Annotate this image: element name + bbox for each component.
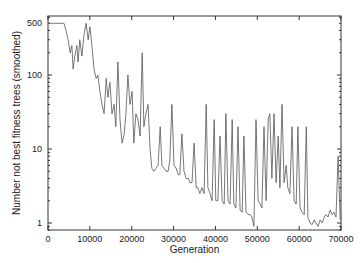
y-tick-label: 100 bbox=[27, 70, 42, 80]
series-line-not-best-fitness bbox=[48, 23, 340, 226]
y-axis-title: Number not best fitness trees (smoothed) bbox=[11, 31, 22, 215]
chart: 010000200003000040000500006000070000 110… bbox=[0, 0, 364, 263]
x-tick-label: 60000 bbox=[287, 234, 312, 244]
y-tick-label: 10 bbox=[32, 144, 42, 154]
x-tick-label: 50000 bbox=[245, 234, 270, 244]
x-tick-label: 40000 bbox=[203, 234, 228, 244]
x-tick-label: 10000 bbox=[77, 234, 102, 244]
x-tick-label: 70000 bbox=[328, 234, 353, 244]
y-tick-label: 500 bbox=[27, 18, 42, 28]
x-tick-label: 20000 bbox=[119, 234, 144, 244]
x-tick-label: 30000 bbox=[161, 234, 186, 244]
x-axis-title: Generation bbox=[170, 244, 219, 255]
x-axis: 010000200003000040000500006000070000 bbox=[45, 16, 353, 244]
x-tick-label: 0 bbox=[45, 234, 50, 244]
y-tick-label: 1 bbox=[37, 218, 42, 228]
series-group bbox=[48, 23, 340, 226]
